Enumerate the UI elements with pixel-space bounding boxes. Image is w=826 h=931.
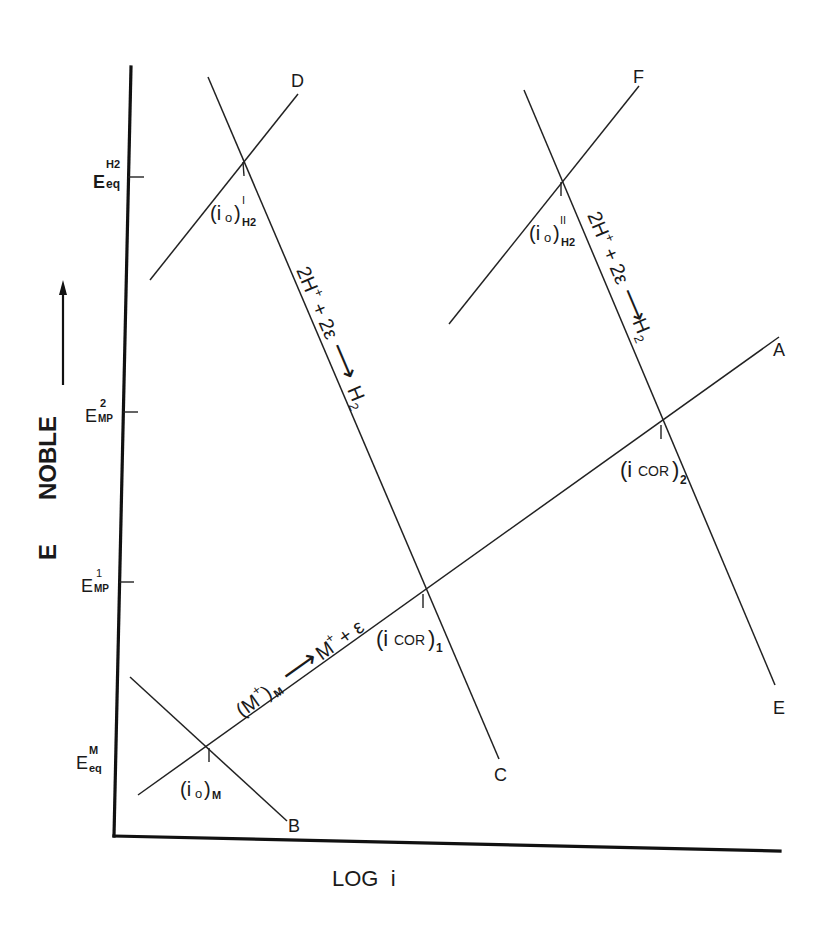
reaction-metal: (M + ) M ⟶ M + + ε xyxy=(228,610,369,723)
x-axis-label: LOG i xyxy=(332,866,396,891)
svg-text:2: 2 xyxy=(346,401,363,414)
svg-text:M: M xyxy=(212,789,221,801)
svg-text:2: 2 xyxy=(100,397,106,409)
label-e: E xyxy=(773,698,785,718)
svg-text:COR: COR xyxy=(638,463,669,479)
label-f: F xyxy=(633,67,644,87)
svg-text:+ ε: + ε xyxy=(329,615,368,651)
svg-text:eq: eq xyxy=(106,177,120,191)
svg-text:M: M xyxy=(89,744,98,756)
svg-text:(i: (i xyxy=(376,626,388,651)
svg-text:): ) xyxy=(553,222,560,244)
line-hydrogen-reduction-1 xyxy=(208,77,499,759)
svg-text:COR: COR xyxy=(394,632,425,648)
svg-text:o: o xyxy=(225,210,232,225)
svg-text:(i: (i xyxy=(620,457,632,482)
svg-text:⟶: ⟶ xyxy=(323,338,365,384)
svg-text:1: 1 xyxy=(96,567,102,579)
svg-text:II: II xyxy=(560,214,566,226)
svg-text:): ) xyxy=(234,202,241,224)
svg-text:(i: (i xyxy=(529,222,540,244)
svg-text:I: I xyxy=(242,194,245,206)
ytick-label-emp-1: E MP 1 xyxy=(81,567,109,596)
svg-text:H2: H2 xyxy=(242,216,256,228)
svg-text:E: E xyxy=(76,753,88,773)
y-axis-title: E NOBLE xyxy=(34,416,61,560)
label-c: C xyxy=(494,765,507,785)
svg-text:(i: (i xyxy=(210,202,221,224)
line-hydrogen-oxidation-2 xyxy=(449,86,639,324)
tick-io-h2-1 xyxy=(243,162,244,176)
line-metal-oxidation xyxy=(138,337,779,795)
label-icor-1: (i COR ) 1 xyxy=(376,626,443,655)
svg-text:o: o xyxy=(195,786,202,801)
svg-text:MP: MP xyxy=(98,413,113,424)
label-a: A xyxy=(773,340,785,360)
svg-text:H2: H2 xyxy=(106,158,120,170)
svg-text:E: E xyxy=(85,406,97,426)
svg-text:MP: MP xyxy=(94,583,109,594)
svg-text:eq: eq xyxy=(89,762,102,774)
svg-text:1: 1 xyxy=(436,641,443,655)
ytick-label-eeq-m: E eq M xyxy=(76,744,102,774)
label-b: B xyxy=(288,816,300,836)
svg-text:E: E xyxy=(81,576,93,596)
label-io-h2-1: (i o ) I H2 xyxy=(210,194,256,228)
svg-text:2: 2 xyxy=(680,473,687,487)
svg-text:): ) xyxy=(204,778,211,800)
label-io-h2-2: (i o ) II H2 xyxy=(529,214,575,248)
ytick-label-eeq-h2: E eq H2 xyxy=(93,158,120,192)
line-hydrogen-oxidation-1 xyxy=(150,94,298,280)
label-io-m: (i o ) M xyxy=(180,778,221,801)
x-axis xyxy=(114,836,780,851)
svg-text:H2: H2 xyxy=(561,236,575,248)
label-icor-2: (i COR ) 2 xyxy=(620,457,687,487)
label-d: D xyxy=(291,71,304,91)
line-hydrogen-reduction-2 xyxy=(524,90,775,685)
svg-text:): ) xyxy=(672,457,679,482)
ytick-label-emp-2: E MP 2 xyxy=(85,397,113,426)
svg-text:2: 2 xyxy=(631,333,648,346)
y-axis-label-noble: NOBLE xyxy=(34,416,61,500)
reaction-h2-right: 2H + + 2ε ⟶ H 2 xyxy=(580,206,662,345)
svg-text:): ) xyxy=(428,626,435,651)
svg-text:E: E xyxy=(93,172,105,192)
reaction-h2-left: 2H + + 2ε ⟶ H 2 xyxy=(289,261,378,414)
evans-diagram: A B C D E F E eq H2 E MP 2 E MP 1 E eq M… xyxy=(0,0,826,931)
up-arrow-icon xyxy=(59,280,67,385)
svg-text:(i: (i xyxy=(180,778,191,800)
y-axis-label-e: E xyxy=(34,544,61,560)
svg-text:o: o xyxy=(544,230,551,245)
svg-text:+ 2ε: + 2ε xyxy=(597,239,634,287)
